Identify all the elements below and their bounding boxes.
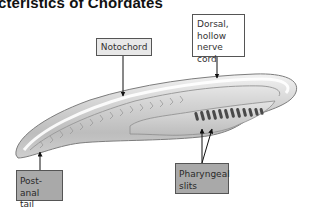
label-notochord: Notochord <box>96 38 152 56</box>
label-slits-line-2: slits <box>179 181 225 193</box>
label-tail-line-1: Post-anal <box>20 176 59 199</box>
label-dorsal-line-1: Dorsal, <box>197 19 241 31</box>
label-notochord-text: Notochord <box>101 42 148 52</box>
label-dorsal-hollow-nerve-cord: Dorsal, hollow nerve cord <box>192 14 245 57</box>
label-tail-line-2: tail <box>20 199 59 211</box>
label-dorsal-line-3: nerve cord <box>197 42 241 65</box>
label-pharyngeal-slits: Pharyngeal slits <box>175 163 229 194</box>
label-slits-line-1: Pharyngeal <box>179 169 225 181</box>
label-post-anal-tail: Post-anal tail <box>16 170 63 201</box>
label-dorsal-line-2: hollow <box>197 31 241 43</box>
